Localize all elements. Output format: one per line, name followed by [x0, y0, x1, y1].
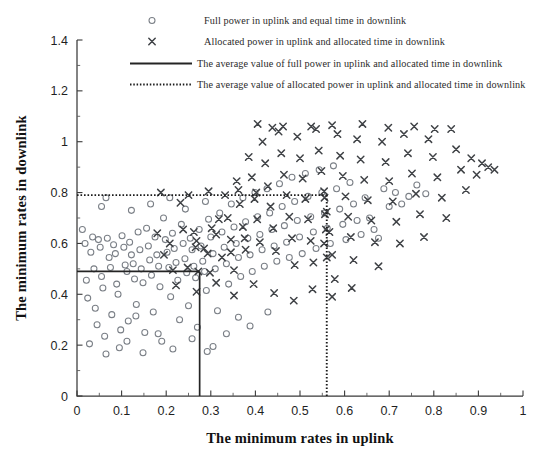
figure-background — [0, 0, 548, 470]
y-axis-title: The minimum rates in downlink — [13, 114, 29, 320]
x-tick-label: 0.9 — [470, 404, 487, 418]
x-tick-label: 1 — [520, 404, 527, 418]
x-tick-label: 0.1 — [113, 404, 130, 418]
x-tick-label: 0.3 — [202, 404, 219, 418]
x-tick-label: 0.6 — [336, 404, 353, 418]
figure-container: Full power in uplink and equal time in d… — [0, 0, 548, 470]
y-tick-label: 0.4 — [51, 288, 68, 302]
y-tick-label: 1.2 — [51, 84, 68, 98]
y-tick-label: 1 — [61, 135, 68, 149]
x-tick-label: 0.4 — [247, 404, 264, 418]
y-tick-label: 0.8 — [51, 186, 68, 200]
x-tick-label: 0.5 — [291, 404, 308, 418]
y-tick-label: 0.6 — [51, 237, 68, 251]
legend-label: Allocated power in uplink and allocated … — [204, 36, 446, 47]
y-tick-label: 0 — [61, 390, 68, 404]
y-tick-label: 0.2 — [51, 339, 68, 353]
x-tick-label: 0.8 — [425, 404, 442, 418]
y-tick-label: 1.4 — [51, 34, 68, 48]
x-tick-label: 0 — [74, 404, 81, 418]
legend-label: The average value of allocated power in … — [197, 79, 526, 90]
legend-label: The average value of full power in uplin… — [197, 58, 503, 69]
scatter-plot-figure: Full power in uplink and equal time in d… — [0, 0, 548, 470]
x-tick-label: 0.2 — [158, 404, 175, 418]
x-axis-title: The minimum rates in uplink — [206, 430, 394, 446]
legend-label: Full power in uplink and equal time in d… — [204, 15, 407, 26]
x-tick-label: 0.7 — [381, 404, 398, 418]
